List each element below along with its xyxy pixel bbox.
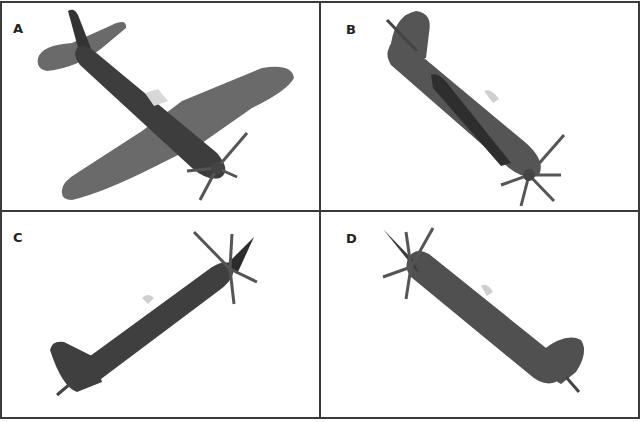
panel-a: A bbox=[2, 3, 319, 210]
panel-d: D bbox=[321, 212, 638, 419]
aircraft-c-illustration bbox=[2, 212, 319, 419]
aircraft-a-illustration bbox=[2, 3, 319, 210]
panel-c: C bbox=[2, 212, 319, 419]
panel-b: B bbox=[321, 3, 638, 210]
aircraft-d-illustration bbox=[321, 212, 638, 419]
aircraft-b-illustration bbox=[321, 3, 638, 210]
